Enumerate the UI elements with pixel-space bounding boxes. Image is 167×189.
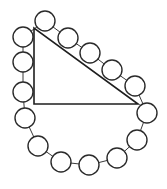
- right-triangle: [34, 28, 138, 104]
- circle-node-13: [13, 82, 33, 102]
- circle-node-1: [35, 11, 55, 31]
- circle-node-11: [28, 136, 48, 156]
- circle-node-10: [51, 152, 71, 172]
- circle-node-9: [79, 155, 99, 175]
- circle-node-3: [80, 43, 100, 63]
- circle-node-4: [102, 60, 122, 80]
- circle-node-14: [13, 52, 33, 72]
- circle-node-8: [107, 148, 127, 168]
- circle-node-5: [125, 76, 145, 96]
- circle-node-7: [127, 130, 147, 150]
- circle-node-6: [137, 103, 157, 123]
- circle-node-15: [13, 27, 33, 47]
- circle-node-12: [15, 108, 35, 128]
- circle-node-2: [58, 28, 78, 48]
- circles-around-triangle-diagram: [0, 0, 167, 189]
